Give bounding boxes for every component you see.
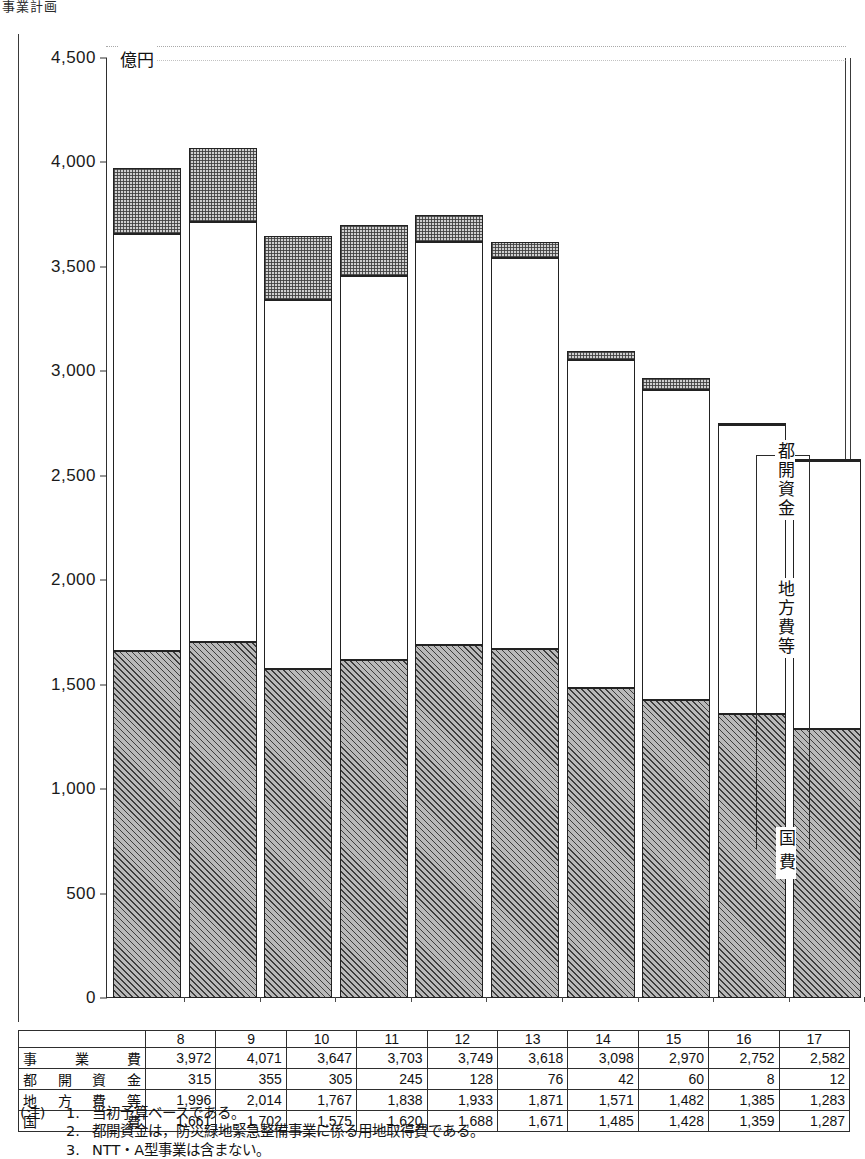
table-cell: 2,752 xyxy=(709,1048,779,1069)
x-tick-mark xyxy=(638,997,639,1002)
table-column-header-15: 15 xyxy=(638,1031,708,1048)
legend-label-kokuhi: 国費 xyxy=(776,827,796,879)
x-tick-mark xyxy=(789,997,790,1002)
table-column-header-9: 9 xyxy=(216,1031,286,1048)
table-cell: 1,871 xyxy=(497,1090,567,1111)
table-cell: 3,703 xyxy=(357,1048,427,1069)
y-tick-label: 4,500 xyxy=(10,48,96,68)
y-tick-label: 3,000 xyxy=(10,361,96,381)
table-column-header-17: 17 xyxy=(779,1031,849,1048)
table-cell: 1,428 xyxy=(638,1111,708,1132)
table-column-header-11: 11 xyxy=(357,1031,427,1048)
bar-segment-chihou-13 xyxy=(491,258,559,649)
table-cell: 1,283 xyxy=(779,1090,849,1111)
bar-segment-chihou-8 xyxy=(113,234,181,651)
table-cell: 42 xyxy=(568,1069,638,1090)
note-item: 2.都開資金は，防災緑地緊急整備事業に係る用地取得費である。 xyxy=(20,1122,484,1140)
table-cell: 2,970 xyxy=(638,1048,708,1069)
bar-segment-kokuhi-12 xyxy=(415,645,483,998)
table-cell: 128 xyxy=(427,1069,497,1090)
table-cell: 355 xyxy=(216,1069,286,1090)
table-column-header-16: 16 xyxy=(709,1031,779,1048)
bar-segment-chihou-14 xyxy=(567,360,635,688)
bar-11 xyxy=(340,225,408,999)
bar-chart-plot-area xyxy=(106,58,850,998)
y-tick-label: 2,000 xyxy=(10,570,96,590)
bar-segment-tokai-8 xyxy=(113,168,181,234)
bar-13 xyxy=(491,242,559,998)
table-cell: 1,287 xyxy=(779,1111,849,1132)
table-cell: 1,359 xyxy=(709,1111,779,1132)
data-table-head: 891011121314151617 xyxy=(19,1031,850,1048)
bar-segment-tokai-11 xyxy=(340,225,408,276)
y-axis-ticks: 05001,0001,5002,0002,5003,0003,5004,0004… xyxy=(0,0,96,1156)
table-header-row: 891011121314151617 xyxy=(19,1031,850,1048)
legend-label-chihouhi-tou: 地方費等 xyxy=(775,578,795,658)
y-tick-label: 4,000 xyxy=(10,152,96,172)
bar-segment-chihou-10 xyxy=(264,300,332,669)
top-gridline xyxy=(106,46,846,47)
x-tick-mark xyxy=(335,997,336,1002)
table-cell: 2,582 xyxy=(779,1048,849,1069)
table-cell: 1,482 xyxy=(638,1090,708,1111)
table-cell: 315 xyxy=(146,1069,216,1090)
x-tick-mark xyxy=(260,997,261,1002)
bar-segment-kokuhi-10 xyxy=(264,669,332,998)
table-column-header-10: 10 xyxy=(286,1031,356,1048)
bar-12 xyxy=(415,215,483,998)
table-cell: 3,618 xyxy=(497,1048,567,1069)
table-cell: 1,671 xyxy=(497,1111,567,1132)
notes-tag xyxy=(20,1122,66,1140)
x-tick-mark xyxy=(562,997,563,1002)
bar-8 xyxy=(113,168,181,998)
bar-segment-tokai-13 xyxy=(491,242,559,258)
x-tick-mark xyxy=(486,997,487,1002)
bar-segment-tokai-16 xyxy=(718,423,786,425)
bar-segment-kokuhi-15 xyxy=(642,700,710,998)
table-cell: 3,098 xyxy=(568,1048,638,1069)
bar-segment-tokai-10 xyxy=(264,236,332,300)
notes-tag xyxy=(20,1141,66,1159)
table-cell: 3,972 xyxy=(146,1048,216,1069)
y-tick-label: 3,500 xyxy=(10,257,96,277)
table-cell: 1,385 xyxy=(709,1090,779,1111)
notes-block: (注)1.当初予算ベースである。2.都開資金は，防災緑地緊急整備事業に係る用地取… xyxy=(20,1104,484,1159)
table-cell: 1,485 xyxy=(568,1111,638,1132)
x-tick-mark xyxy=(411,997,412,1002)
legend-label-tokai-shikin: 都開資金 xyxy=(775,440,795,520)
note-index: 3. xyxy=(66,1141,92,1159)
bar-segment-kokuhi-11 xyxy=(340,660,408,998)
table-row: 都開資金315355305245128764260812 xyxy=(19,1069,850,1090)
note-text: 当初予算ベースである。 xyxy=(92,1104,245,1122)
bar-segment-kokuhi-9 xyxy=(189,642,257,998)
bar-10 xyxy=(264,236,332,998)
y-tick-label: 0 xyxy=(10,988,96,1008)
note-index: 1. xyxy=(66,1104,92,1122)
x-tick-mark xyxy=(184,997,185,1002)
bar-segment-kokuhi-13 xyxy=(491,649,559,998)
table-cell: 305 xyxy=(286,1069,356,1090)
y-tick-label: 500 xyxy=(10,884,96,904)
note-text: NTT・A型事業は含まない。 xyxy=(92,1141,270,1159)
table-column-header-13: 13 xyxy=(497,1031,567,1048)
note-index: 2. xyxy=(66,1122,92,1140)
table-cell: 1,571 xyxy=(568,1090,638,1111)
notes-tag: (注) xyxy=(20,1104,66,1122)
note-item: 3.NTT・A型事業は含まない。 xyxy=(20,1141,484,1159)
table-corner-cell xyxy=(19,1031,146,1048)
table-cell: 76 xyxy=(497,1069,567,1090)
bar-segment-chihou-11 xyxy=(340,276,408,660)
table-row: 事業費3,9724,0713,6473,7033,7493,6183,0982,… xyxy=(19,1048,850,1069)
table-cell: 8 xyxy=(709,1069,779,1090)
bar-segment-tokai-9 xyxy=(189,148,257,222)
table-column-header-12: 12 xyxy=(427,1031,497,1048)
bar-segment-chihou-12 xyxy=(415,242,483,646)
y-tick-label: 1,000 xyxy=(10,779,96,799)
bar-segment-kokuhi-14 xyxy=(567,688,635,998)
bar-segment-chihou-15 xyxy=(642,390,710,700)
table-column-header-8: 8 xyxy=(146,1031,216,1048)
table-cell: 60 xyxy=(638,1069,708,1090)
bar-9 xyxy=(189,148,257,998)
bar-segment-chihou-9 xyxy=(189,222,257,643)
table-column-header-14: 14 xyxy=(568,1031,638,1048)
